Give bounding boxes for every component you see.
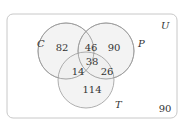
venn-diagram: C P T U 82 90 114 46 14 26 38 90 [0,0,185,126]
region-c-only: 82 [56,42,69,53]
set-p-label: P [137,38,145,49]
region-p-only: 90 [108,42,121,53]
region-c-p: 46 [85,42,98,53]
universe-label: U [161,20,170,31]
region-c-p-t: 38 [86,56,99,67]
venn-svg: C P T U 82 90 114 46 14 26 38 90 [0,0,185,126]
region-outside: 90 [159,103,172,114]
region-t-only: 114 [82,84,101,95]
region-p-t: 26 [101,66,114,77]
region-c-t: 14 [72,66,85,77]
set-c-label: C [37,38,45,49]
